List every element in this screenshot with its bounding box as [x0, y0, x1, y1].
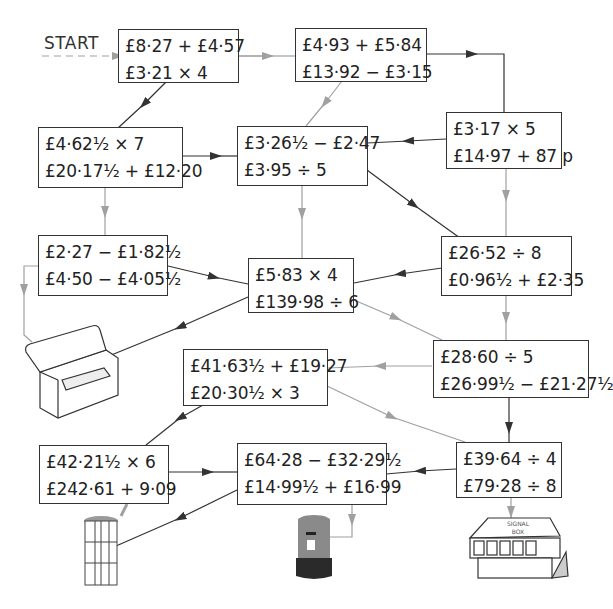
signal-box-icon: SIGNAL BOX	[0, 0, 613, 609]
svg-text:BOX: BOX	[512, 528, 524, 535]
svg-text:SIGNAL: SIGNAL	[507, 520, 530, 527]
money-maze-diagram: START £8·27 + £4·57 £3·21 × 4 £4·93 + £5…	[0, 0, 613, 609]
